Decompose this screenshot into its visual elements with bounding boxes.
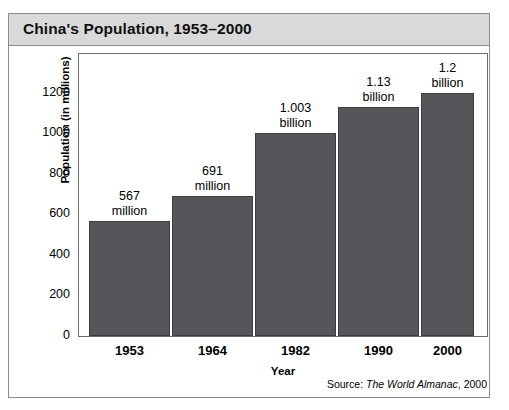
source-prefix: Source: — [327, 378, 366, 390]
y-tick-800: 800 — [28, 167, 70, 179]
value-label-1964: 691 million — [172, 164, 253, 194]
y-tick-1200: 1200 — [28, 86, 70, 98]
y-tick-0: 0 — [28, 329, 70, 341]
source-publication: The World Almanac — [366, 378, 458, 390]
x-tick-1990: 1990 — [338, 343, 419, 358]
y-tick-1000: 1000 — [28, 126, 70, 138]
x-tick-1982: 1982 — [255, 343, 336, 358]
source-note: Source: The World Almanac, 2000 — [327, 378, 487, 390]
value-label-1953: 567 million — [89, 189, 170, 219]
source-suffix: , 2000 — [458, 378, 487, 390]
bar-1953[interactable] — [89, 221, 170, 336]
y-tick-200: 200 — [28, 288, 70, 300]
value-label-1982: 1.003 billion — [255, 101, 336, 131]
y-tick-400: 400 — [28, 248, 70, 260]
x-axis-title: Year — [78, 365, 488, 377]
x-tick-1964: 1964 — [172, 343, 253, 358]
chart-title-band: China's Population, 1953–2000 — [8, 13, 490, 46]
bar-2000[interactable] — [421, 93, 474, 336]
bar-1982[interactable] — [255, 133, 336, 336]
bar-1990[interactable] — [338, 107, 419, 336]
chart-figure: China's Population, 1953–2000 Population… — [0, 0, 509, 410]
value-label-1990: 1.13 billion — [338, 75, 419, 105]
y-axis-title: Population (in millions) — [59, 20, 71, 220]
value-label-2000: 1.2 billion — [414, 61, 481, 91]
y-tick-600: 600 — [28, 207, 70, 219]
x-tick-2000: 2000 — [414, 343, 481, 358]
bar-1964[interactable] — [172, 196, 253, 336]
page-title: China's Population, 1953–2000 — [23, 20, 252, 38]
x-tick-1953: 1953 — [89, 343, 170, 358]
